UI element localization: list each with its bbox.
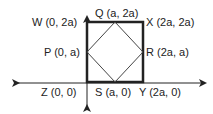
coordinate-diagram: W (0, 2a) Q (a, 2a) X (2a, 2a) P (0, a) …: [0, 0, 213, 114]
label-p: P (0, a): [44, 46, 80, 58]
label-w: W (0, 2a): [32, 16, 77, 28]
label-x: X (2a, 2a): [146, 16, 194, 28]
label-s: S (a, 0): [95, 86, 131, 98]
square-wxyz: [87, 22, 143, 82]
square-pqrs: [87, 22, 143, 82]
label-z: Z (0, 0): [41, 86, 76, 98]
label-q: Q (a, 2a): [95, 7, 138, 19]
label-y: Y (2a, 0): [139, 86, 181, 98]
label-r: R (2a, a): [146, 46, 189, 58]
